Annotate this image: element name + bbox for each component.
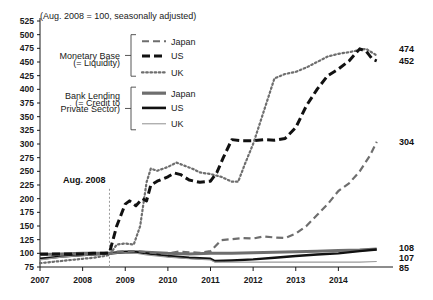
- x-tick-label: 2010: [158, 275, 177, 285]
- y-tick-label: 525: [20, 16, 34, 26]
- y-tick-label: 375: [20, 98, 34, 108]
- legend-label-uk[interactable]: UK: [171, 68, 184, 78]
- y-tick-label: 300: [20, 139, 34, 149]
- y-tick-label: 200: [20, 194, 34, 204]
- end-label-85: 85: [399, 263, 409, 273]
- x-tick-label: 2011: [201, 275, 220, 285]
- y-tick-label: 150: [20, 221, 34, 231]
- y-tick-label: 400: [20, 84, 34, 94]
- legend-label-us[interactable]: US: [171, 103, 184, 113]
- legend-label-japan[interactable]: Japan: [171, 89, 196, 99]
- chart-subtitle-group: (Aug. 2008 = 100, seasonally adjusted): [40, 11, 196, 21]
- series-line-monetary-us: [40, 49, 377, 254]
- end-label-108: 108: [399, 243, 414, 253]
- legend-label-uk[interactable]: UK: [171, 119, 184, 129]
- y-tick-label: 175: [20, 207, 34, 217]
- y-tick-label: 250: [20, 166, 34, 176]
- legend-label-japan[interactable]: Japan: [171, 37, 196, 47]
- y-axis-ticks: 7510012515017520022525027530032535037540…: [20, 16, 40, 272]
- y-tick-label: 75: [25, 262, 35, 272]
- x-tick-label: 2014: [329, 275, 348, 285]
- x-tick-label: 2008: [73, 275, 92, 285]
- chart-container: (Aug. 2008 = 100, seasonally adjusted) 7…: [0, 0, 433, 300]
- y-tick-label: 475: [20, 43, 34, 53]
- end-value-labels: 47445230410810785: [399, 44, 414, 273]
- x-tick-label: 2007: [31, 275, 50, 285]
- y-tick-label: 425: [20, 71, 34, 81]
- legend-group-brace: [131, 35, 136, 77]
- y-tick-label: 125: [20, 235, 34, 245]
- x-tick-label: 2009: [116, 275, 135, 285]
- y-tick-label: 100: [20, 248, 34, 258]
- x-axis-ticks: 20072008200920102011201220132014: [31, 267, 349, 285]
- end-label-452: 452: [399, 56, 414, 66]
- chart-subtitle: (Aug. 2008 = 100, seasonally adjusted): [40, 11, 196, 21]
- end-label-304: 304: [399, 137, 414, 147]
- y-tick-label: 275: [20, 153, 34, 163]
- y-tick-label: 225: [20, 180, 34, 190]
- series-line-monetary-uk: [40, 49, 377, 263]
- chart-legend: Monetary Base(= Liquidity)JapanUSUKBank …: [59, 35, 195, 130]
- y-tick-label: 350: [20, 112, 34, 122]
- legend-label-us[interactable]: US: [171, 51, 184, 61]
- legend-group-label: Private Sector): [60, 104, 120, 114]
- x-tick-label: 2012: [244, 275, 263, 285]
- legend-group-label: (= Liquidity): [73, 58, 120, 68]
- end-label-107: 107: [399, 253, 414, 263]
- y-tick-label: 325: [20, 125, 34, 135]
- series-line-monetary-japan: [40, 142, 377, 255]
- x-tick-label: 2013: [286, 275, 305, 285]
- y-tick-label: 450: [20, 57, 34, 67]
- end-label-474: 474: [399, 44, 414, 54]
- aug-2008-annotation-label: Aug. 2008: [63, 175, 106, 185]
- data-series-group: [40, 49, 377, 263]
- y-tick-label: 500: [20, 30, 34, 40]
- line-chart: (Aug. 2008 = 100, seasonally adjusted) 7…: [0, 0, 433, 300]
- legend-group-brace: [131, 87, 136, 130]
